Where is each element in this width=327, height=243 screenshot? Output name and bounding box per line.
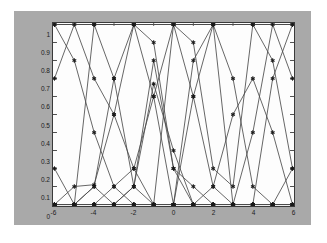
- data-point-marker: [251, 130, 255, 134]
- data-point-marker: [72, 58, 76, 62]
- data-point-marker: [191, 94, 195, 98]
- plot-area: [52, 22, 295, 207]
- x-tick-label: 2: [212, 210, 216, 217]
- data-point-marker: [271, 58, 275, 62]
- x-axis-tick-labels: -6-4-20246: [52, 209, 295, 221]
- data-point-marker: [172, 202, 176, 206]
- y-tick-label: 0.3: [41, 159, 50, 166]
- data-point-marker: [291, 202, 294, 206]
- data-point-marker: [112, 112, 116, 116]
- data-point-marker: [152, 58, 156, 62]
- y-tick-label: 0.8: [41, 68, 50, 75]
- data-point-marker: [53, 23, 56, 27]
- x-tick-label: 6: [292, 210, 296, 217]
- x-tick-label: -6: [51, 210, 57, 217]
- y-tick-label: 0.9: [41, 49, 50, 56]
- y-tick-label: 0.7: [41, 86, 50, 93]
- x-tick-label: -2: [131, 210, 137, 217]
- y-axis-tick-labels: 00.10.20.30.40.50.60.70.80.91: [28, 22, 50, 207]
- series-line: [54, 78, 292, 204]
- data-point-marker: [251, 202, 255, 206]
- x-tick-label: 4: [252, 210, 256, 217]
- series-line: [54, 24, 292, 204]
- data-point-marker: [291, 23, 294, 27]
- y-tick-label: 0: [46, 213, 50, 220]
- data-point-marker: [112, 76, 116, 80]
- y-tick-label: 0.6: [41, 104, 50, 111]
- data-point-marker: [271, 76, 275, 80]
- data-point-marker: [231, 76, 235, 80]
- data-point-marker: [251, 76, 255, 80]
- data-point-marker: [191, 58, 195, 62]
- y-tick-label: 0.5: [41, 122, 50, 129]
- data-point-marker: [152, 94, 156, 98]
- x-tick-label: -4: [91, 210, 97, 217]
- data-point-marker: [92, 23, 96, 27]
- y-tick-label: 0.1: [41, 195, 50, 202]
- data-point-marker: [72, 23, 76, 27]
- data-point-marker: [231, 112, 235, 116]
- data-point-marker: [172, 148, 176, 152]
- data-point-marker: [92, 130, 96, 134]
- data-point-marker: [92, 76, 96, 80]
- figure-panel: 00.10.20.30.40.50.60.70.80.91 -6-4-20246: [14, 11, 311, 225]
- y-tick-label: 0.4: [41, 140, 50, 147]
- x-tick-label: 0: [172, 210, 176, 217]
- data-point-marker: [152, 82, 156, 86]
- chart-canvas: [53, 23, 294, 206]
- y-tick-label: 1: [46, 31, 50, 38]
- data-point-marker: [271, 23, 275, 27]
- data-point-marker: [271, 130, 275, 134]
- y-tick-label: 0.2: [41, 177, 50, 184]
